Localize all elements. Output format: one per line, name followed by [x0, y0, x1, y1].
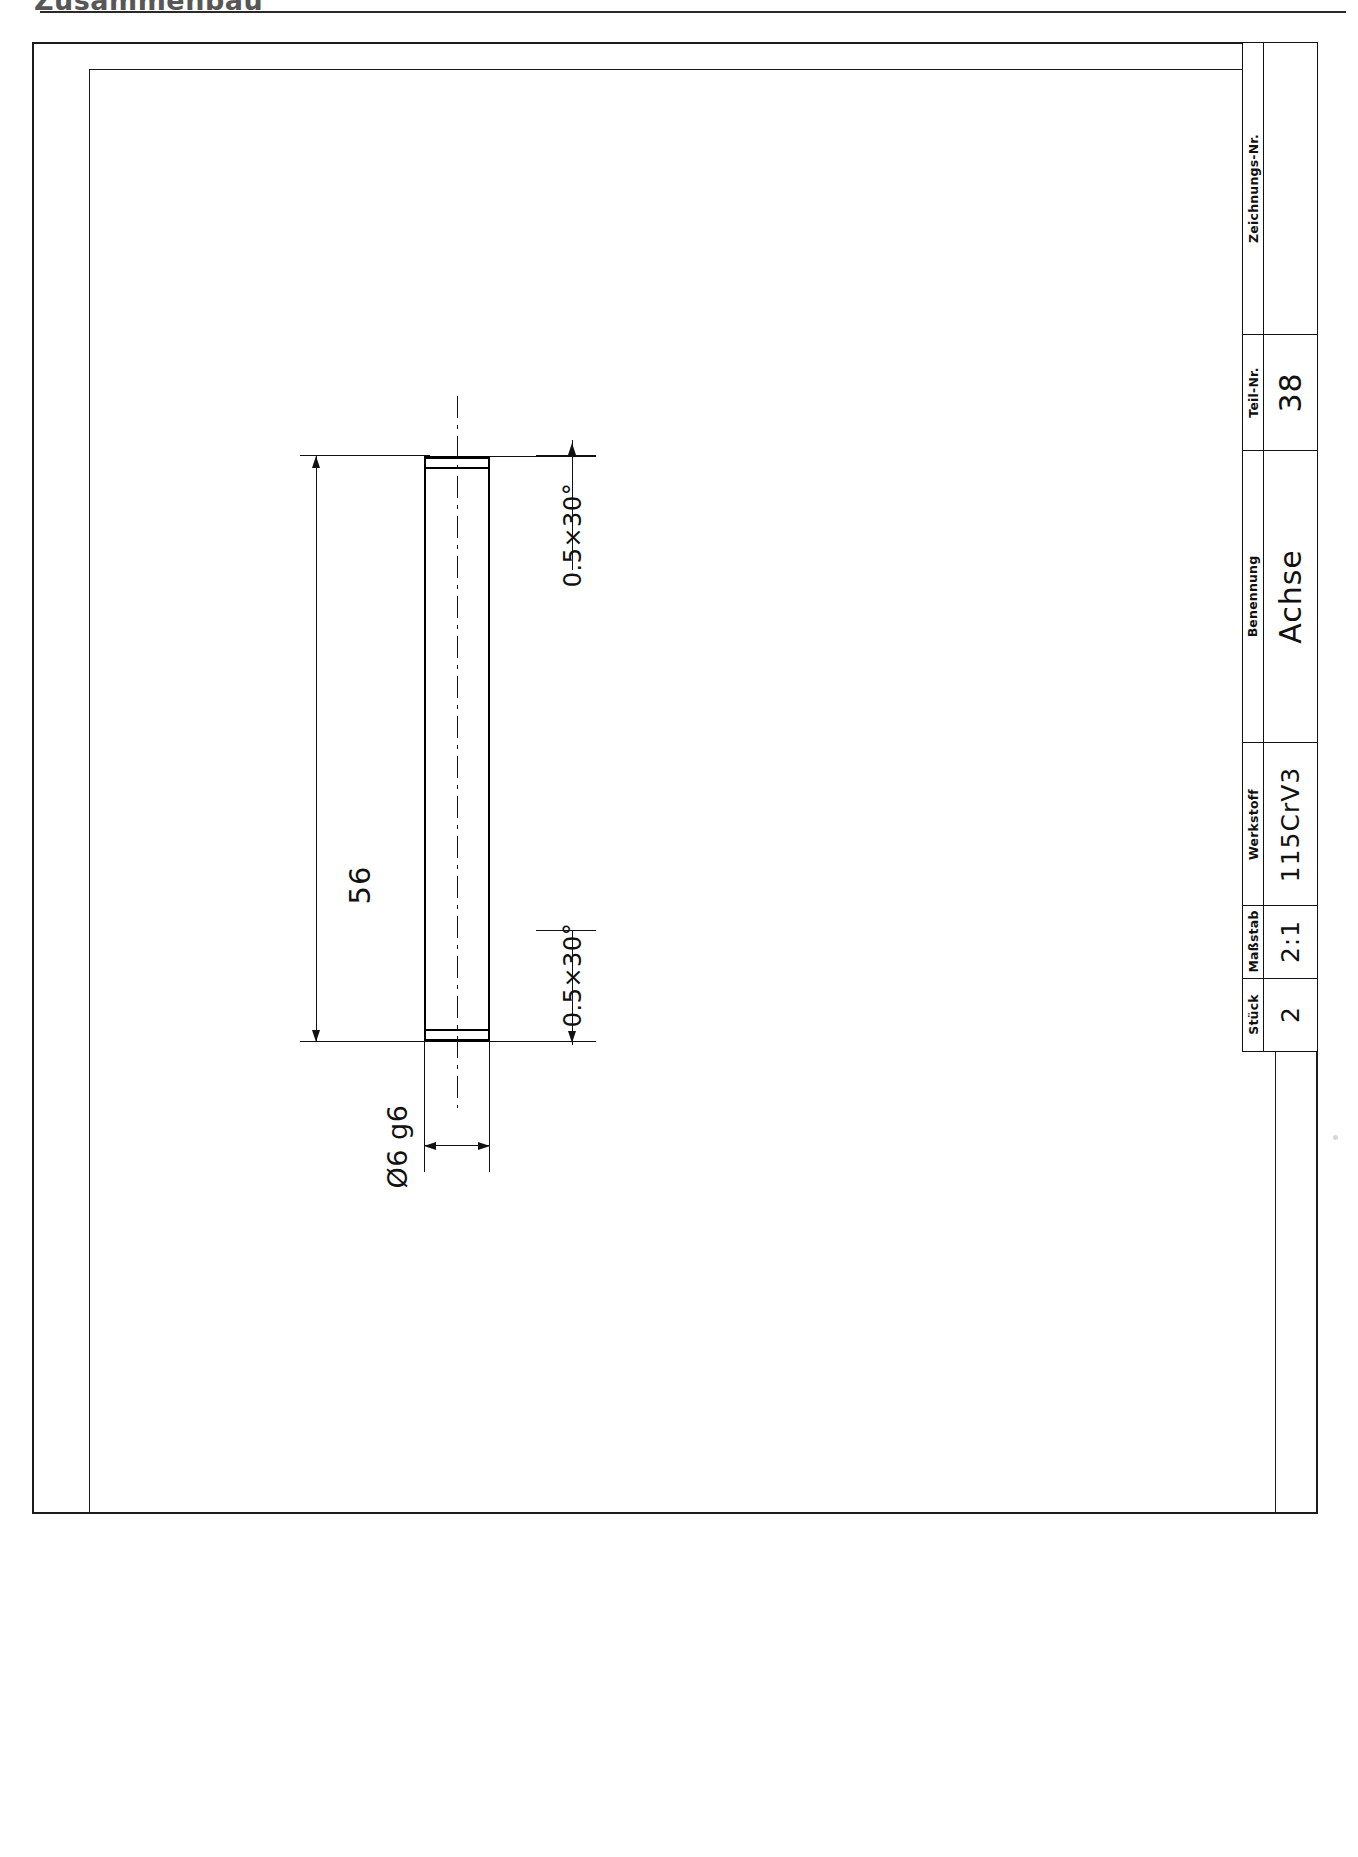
label-zeichnungs-nr: Zeichnungs-Nr. — [1243, 43, 1264, 335]
title-block-row-teil-nr[interactable]: Teil-Nr. 38 — [1242, 334, 1318, 451]
value-teil-nr: 38 — [1264, 335, 1317, 450]
title-block: Zeichnungs-Nr. Teil-Nr. 38 Benennung — [1242, 42, 1318, 1052]
label-stueck: Stück — [1243, 979, 1264, 1051]
drawing-frame — [32, 42, 1318, 1514]
label-massstab: Maßstab — [1243, 906, 1264, 978]
value-stueck: 2 — [1264, 979, 1317, 1051]
scan-speck — [1333, 1135, 1338, 1140]
value-zeichnungs-nr — [1264, 43, 1317, 335]
value-werkstoff: 115CrV3 — [1264, 743, 1317, 905]
title-block-row-massstab[interactable]: Maßstab 2:1 — [1242, 905, 1318, 979]
header-rule — [40, 11, 1346, 13]
value-massstab: 2:1 — [1264, 906, 1317, 978]
title-block-row-stueck[interactable]: Stück 2 — [1242, 978, 1318, 1052]
value-benennung: Achse — [1264, 451, 1317, 743]
drawing-frame-inner — [89, 69, 1276, 1513]
label-teil-nr: Teil-Nr. — [1243, 335, 1264, 450]
title-block-row-werkstoff[interactable]: Werkstoff 115CrV3 — [1242, 742, 1318, 906]
label-benennung: Benennung — [1243, 451, 1264, 743]
label-werkstoff: Werkstoff — [1243, 743, 1264, 905]
title-block-row-benennung[interactable]: Benennung Achse — [1242, 450, 1318, 744]
title-block-row-zeichnungs-nr[interactable]: Zeichnungs-Nr. — [1242, 42, 1318, 336]
drawing-sheet: Zusammenbau 56 Ø6 g6 — [0, 0, 1358, 1857]
